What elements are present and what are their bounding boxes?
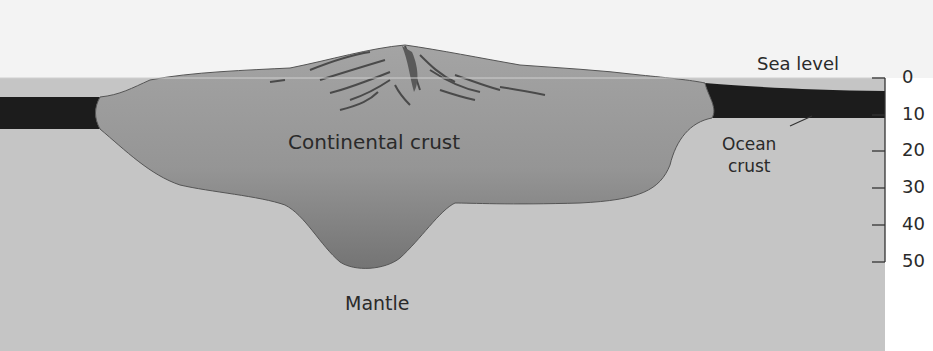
ocean-crust-label: Ocean crust [722,133,776,177]
depth-tick-20: 20 [902,139,925,160]
depth-tick-50: 50 [902,250,925,271]
crust-cross-section-diagram: Continental crust Mantle Sea level Ocean… [0,0,933,351]
ocean-crust-label-line2: crust [722,155,776,177]
depth-tick-40: 40 [902,213,925,234]
sea-level-label: Sea level [757,53,839,74]
ocean-crust-label-line1: Ocean [722,133,776,155]
depth-tick-0: 0 [902,66,913,87]
depth-tick-30: 30 [902,176,925,197]
depth-tick-10: 10 [902,103,925,124]
ocean-crust-left [0,97,100,129]
continental-crust-label: Continental crust [288,130,460,154]
mantle-label: Mantle [345,292,410,314]
